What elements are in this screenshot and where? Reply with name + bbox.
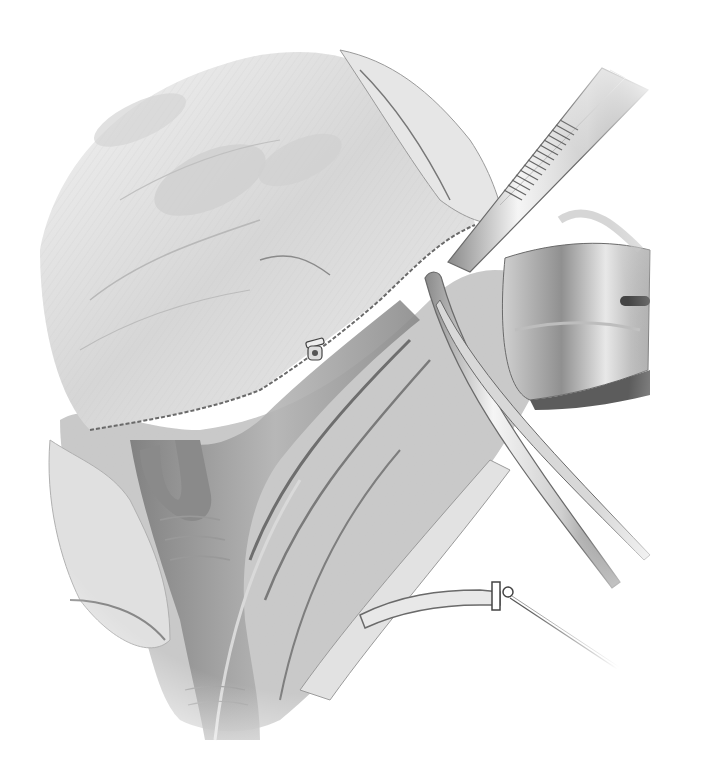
vignette [0,0,701,771]
surgical-illustration [0,0,701,771]
illustration-svg [0,0,701,771]
